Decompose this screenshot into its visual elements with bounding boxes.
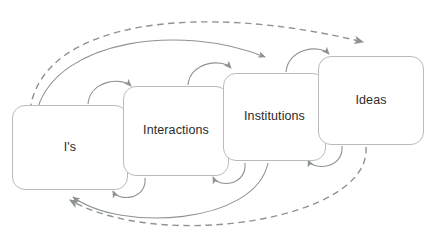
node-label-ideas: Ideas	[355, 94, 386, 108]
node-label-is: I's	[64, 141, 76, 155]
node-box-interactions[interactable]: Interactions	[123, 86, 229, 176]
node-box-ideas[interactable]: Ideas	[318, 56, 424, 145]
node-box-institutions[interactable]: Institutions	[223, 73, 326, 161]
node-label-institutions: Institutions	[244, 110, 305, 124]
diagram-canvas: I's Interactions Institutions Ideas	[0, 0, 433, 247]
node-label-interactions: Interactions	[143, 124, 209, 138]
node-box-is[interactable]: I's	[12, 105, 128, 190]
